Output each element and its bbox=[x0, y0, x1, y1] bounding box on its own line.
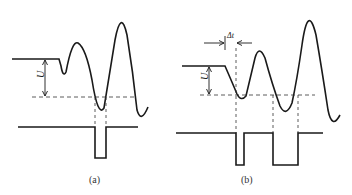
panel-b-caption: (b) bbox=[241, 174, 253, 186]
panel-a bbox=[12, 23, 148, 158]
panel-b-waveform bbox=[182, 21, 340, 122]
panel-b-output-pulse bbox=[176, 133, 323, 165]
panel-a-caption: (a) bbox=[89, 174, 100, 186]
panel-b bbox=[176, 21, 340, 165]
panel-b-dt-label: Δt bbox=[226, 31, 235, 40]
diagram-svg: U (a) U Δt (b) bbox=[0, 0, 352, 195]
panel-a-waveform bbox=[12, 23, 148, 117]
panel-a-output-pulse bbox=[18, 127, 138, 158]
panel-a-u-label: U bbox=[35, 70, 46, 78]
diagram-canvas: U (a) U Δt (b) bbox=[0, 0, 352, 195]
panel-b-u-label: U bbox=[199, 72, 210, 80]
